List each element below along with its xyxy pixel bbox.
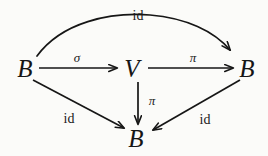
commutative-diagram-figure: V : horizontal arrow --> B : horizontal …: [0, 0, 268, 156]
node-b-left: B: [17, 56, 32, 81]
edge-label-pi-v-to-b-bottom: π: [149, 94, 156, 107]
arrow-id-right-diagonal: [153, 80, 240, 130]
node-v-center: V: [124, 56, 139, 81]
edge-label-id-arc-top: id: [133, 9, 144, 23]
edge-label-id-left-diagonal: id: [64, 112, 75, 126]
node-b-right: B: [239, 56, 254, 81]
node-b-bottom: B: [128, 126, 143, 151]
edge-label-sigma-b-to-v: σ: [74, 51, 80, 64]
edge-label-pi-v-to-b-right: π: [190, 51, 197, 64]
edge-label-id-right-diagonal: id: [200, 113, 211, 127]
arrow-id-left-diagonal: [33, 80, 124, 128]
